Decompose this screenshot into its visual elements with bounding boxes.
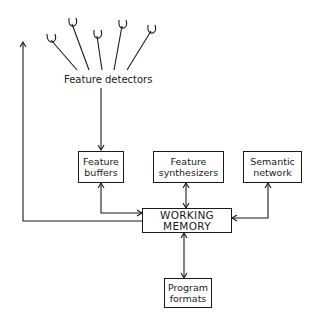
feature-buffers-line1: Feature <box>83 156 119 167</box>
program-formats-line1: Program <box>168 282 208 293</box>
semantic-network-line2: network <box>253 167 292 178</box>
feature-detector-icon <box>127 25 156 70</box>
feature-detector-icon <box>47 34 77 70</box>
feature-synthesizers-line1: Feature <box>171 156 207 167</box>
feature-detector-icon <box>114 20 127 70</box>
working-memory-line1: WORKING <box>160 210 214 221</box>
program-formats-box: Program formats <box>164 278 212 308</box>
feature-synthesizers-box: Feature synthesizers <box>153 151 224 183</box>
feature-detector-icon <box>94 30 102 70</box>
feature-synthesizers-line2: synthesizers <box>159 167 218 178</box>
feature-buffers-line2: buffers <box>84 167 117 178</box>
feature-detector-icon <box>69 18 89 70</box>
working-memory-box: WORKING MEMORY <box>142 208 232 233</box>
feature-detectors-label: Feature detectors <box>64 74 152 85</box>
semantic-network-box: Semantic network <box>243 151 302 183</box>
working-memory-line2: MEMORY <box>163 221 211 232</box>
feature-buffers-box: Feature buffers <box>78 151 124 183</box>
semantic-network-line1: Semantic <box>250 156 295 167</box>
program-formats-line2: formats <box>170 293 207 304</box>
